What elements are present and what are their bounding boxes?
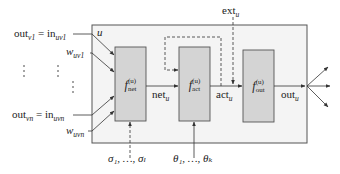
theta-params-label: θ₁, …, θₖ <box>173 153 212 164</box>
ellipsis-dots <box>23 65 74 93</box>
f-act-label: f(u)act <box>179 78 210 93</box>
weight-sub: uv1 <box>73 51 84 60</box>
f-sub: act <box>192 86 200 93</box>
input-n-label: outvn = inuvn <box>12 109 64 123</box>
f-sub: out <box>256 87 265 94</box>
f-sub: net <box>128 86 137 93</box>
in-sub: uvn <box>53 114 64 123</box>
unit-label-text: u <box>97 26 103 38</box>
weight-1-label: wuv1 <box>66 46 84 60</box>
ext-sub: u <box>235 10 239 19</box>
unit-label: u <box>97 27 103 38</box>
out-sub: vn <box>26 114 33 123</box>
out-text: out <box>281 88 295 100</box>
weight-n-label: wuvn <box>66 125 84 139</box>
out-signal-label: outu <box>281 89 299 103</box>
ext-text: ext <box>222 4 235 16</box>
input-1-label: outv1 = inuv1 <box>14 28 66 42</box>
net-text: net <box>152 88 165 100</box>
act-sub: u <box>229 94 233 103</box>
out-text: out <box>14 27 28 39</box>
equals-sign: = <box>38 27 44 39</box>
out-sub: v1 <box>28 33 35 42</box>
weight-sub: uvn <box>73 130 84 139</box>
f-out-label: f(u)out <box>243 79 274 94</box>
f-sup: (u) <box>256 79 265 86</box>
f-sup: (u) <box>128 78 137 85</box>
f-net-label: f(u)net <box>115 78 146 93</box>
equals-sign: = <box>36 108 42 120</box>
act-signal-label: actu <box>216 89 233 103</box>
sigma-params-label: σ₁, …, σₗ <box>108 153 146 164</box>
out-text: out <box>12 108 26 120</box>
net-signal-label: netu <box>152 89 169 103</box>
act-text: act <box>216 88 229 100</box>
f-sup: (u) <box>192 78 200 85</box>
in-sub: uv1 <box>55 33 66 42</box>
out-sub: u <box>295 94 299 103</box>
net-sub: u <box>165 94 169 103</box>
output-fan <box>307 67 330 107</box>
ext-signal-label: extu <box>222 5 239 19</box>
